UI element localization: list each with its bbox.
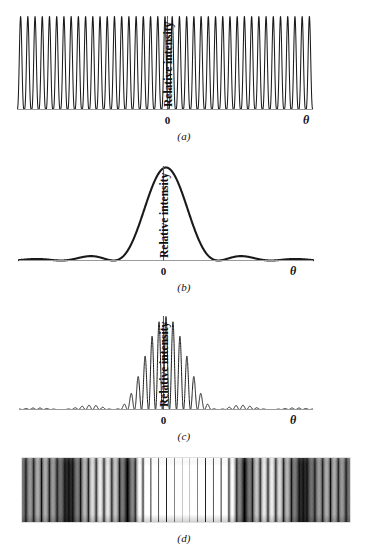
figure-root: 0 θ Relative intensity (a) 0 θ Relative … xyxy=(0,0,368,560)
panel-c-origin-label: 0 xyxy=(161,414,167,426)
panel-c: 0 θ Relative intensity (c) xyxy=(0,300,368,450)
panel-d: (d) xyxy=(0,450,368,560)
panel-d-caption: (d) xyxy=(0,532,368,544)
panel-c-caption: (c) xyxy=(0,430,368,442)
fringe-photograph-canvas xyxy=(22,458,350,522)
panel-a-origin-label: 0 xyxy=(165,114,171,126)
panel-a-theta-label: θ xyxy=(303,113,310,127)
panel-b-theta-label: θ xyxy=(290,264,297,278)
panel-b-svg: 0 θ Relative intensity xyxy=(0,150,368,280)
panel-b-ylabel: Relative intensity xyxy=(158,172,171,258)
panel-a-svg: 0 θ Relative intensity xyxy=(0,0,368,130)
panel-a-caption: (a) xyxy=(0,130,368,142)
panel-a-plot: 0 θ Relative intensity xyxy=(0,0,368,130)
panel-a: 0 θ Relative intensity (a) xyxy=(0,0,368,150)
panel-b-caption: (b) xyxy=(0,281,368,293)
panel-a-ylabel: Relative intensity xyxy=(162,21,175,107)
fringe-photograph xyxy=(22,458,350,522)
panel-c-theta-label: θ xyxy=(290,413,297,427)
panel-b-plot: 0 θ Relative intensity xyxy=(0,150,368,280)
panel-c-svg: 0 θ Relative intensity xyxy=(0,300,368,430)
panel-b: 0 θ Relative intensity (b) xyxy=(0,150,368,300)
panel-b-origin-label: 0 xyxy=(161,265,167,277)
panel-c-plot: 0 θ Relative intensity xyxy=(0,300,368,430)
panel-c-ylabel: Relative intensity xyxy=(158,321,171,407)
